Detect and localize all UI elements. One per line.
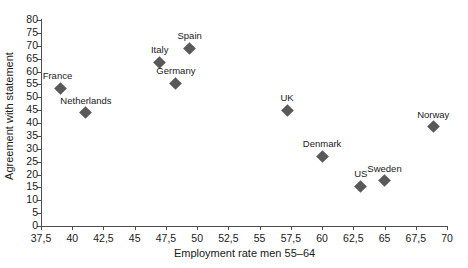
x-tick-label: 57,5 [281,232,301,245]
x-tick-mark [228,226,229,230]
x-axis-title: Employment rate men 55–64 [41,247,448,259]
y-tick-label: 65 [26,52,38,65]
plot-area: 05101520253035404550556065707580 37,5404… [41,20,447,226]
x-tick-label: 42,5 [93,232,113,245]
y-tick-label: 60 [26,65,38,78]
diamond-marker [183,42,196,55]
x-tick-label: 50 [191,232,203,245]
x-tick-label: 67,5 [406,232,426,245]
y-tick-label: 20 [26,168,38,181]
y-tick-label: 0 [32,219,38,232]
x-tick-mark [353,226,354,230]
x-tick-label: 52,5 [218,232,238,245]
y-tick-label: 5 [32,206,38,219]
x-tick-mark [103,226,104,230]
x-tick-label: 70 [441,232,453,245]
y-axis-title: Agreement with statement [3,13,15,219]
y-tick-label: 10 [26,193,38,206]
x-tick-mark [166,226,167,230]
diamond-marker [170,77,183,90]
y-tick-label: 35 [26,129,38,142]
data-point-label: Spain [178,30,202,41]
x-tick-mark [416,226,417,230]
x-tick-label: 37,5 [31,232,51,245]
x-tick-label: 62,5 [343,232,363,245]
diamond-marker [316,150,329,163]
diamond-marker [80,106,93,119]
x-tick-mark [72,226,73,230]
x-tick-label: 47,5 [156,232,176,245]
x-axis-line [41,226,448,227]
y-tick-label: 30 [26,142,38,155]
data-point-label: France [43,70,73,81]
diamond-marker [354,180,367,193]
y-tick-label: 15 [26,180,38,193]
x-tick-mark [322,226,323,230]
x-tick-mark [197,226,198,230]
x-tick-label: 65 [379,232,391,245]
y-tick-label: 75 [26,26,38,39]
scatter-chart: 05101520253035404550556065707580 37,5404… [0,0,468,268]
y-tick-label: 45 [26,103,38,116]
diamond-marker [55,82,68,95]
y-tick-label: 55 [26,77,38,90]
x-tick-mark [385,226,386,230]
x-tick-mark [41,226,42,230]
x-tick-label: 60 [316,232,328,245]
x-tick-label: 40 [66,232,78,245]
y-tick-label: 80 [26,13,38,26]
x-tick-mark [135,226,136,230]
y-tick-label: 40 [26,116,38,129]
y-tick-label: 70 [26,39,38,52]
data-point-label: Sweden [367,163,401,174]
data-point-label: Germany [156,65,195,76]
x-tick-mark [291,226,292,230]
data-point-label: UK [280,92,293,103]
data-point-label: Denmark [303,138,342,149]
diamond-marker [378,175,391,188]
x-tick-label: 45 [129,232,141,245]
data-point-label: Netherlands [60,95,111,106]
data-point-label: Italy [151,44,168,55]
y-tick-label: 50 [26,90,38,103]
data-point-label: US [354,168,367,179]
x-tick-mark [260,226,261,230]
x-tick-mark [447,226,448,230]
diamond-marker [281,104,294,117]
diamond-marker [427,120,440,133]
y-tick-label: 25 [26,155,38,168]
x-tick-label: 55 [254,232,266,245]
data-point-label: Norway [417,109,449,120]
